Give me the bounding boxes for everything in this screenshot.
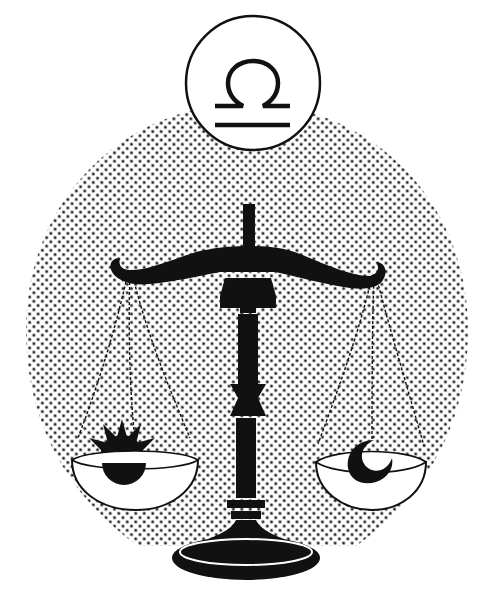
scale-base bbox=[172, 536, 320, 580]
libra-glyph-medallion bbox=[186, 16, 320, 150]
libra-illustration bbox=[0, 0, 494, 600]
